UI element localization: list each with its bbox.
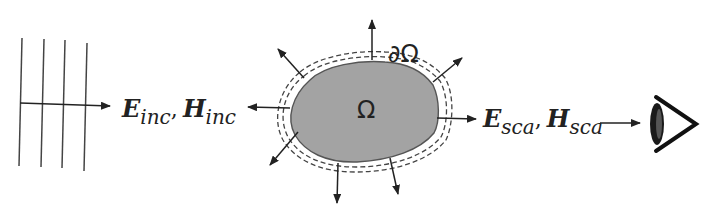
incident-H: H bbox=[183, 94, 206, 123]
arrow-down bbox=[337, 163, 338, 203]
wavefront-line bbox=[19, 38, 22, 166]
separator: , bbox=[535, 107, 542, 132]
incident-direction-arrow bbox=[20, 103, 110, 106]
arrow-lower-right bbox=[390, 158, 398, 194]
incident-E-sub: inc bbox=[140, 105, 170, 129]
incident-field-label: Einc, Hinc bbox=[122, 94, 236, 129]
arrow-right bbox=[437, 118, 476, 119]
arrow-upper-left bbox=[278, 49, 304, 78]
scattered-E-sub: sca bbox=[501, 115, 534, 139]
arrow-left bbox=[248, 107, 290, 108]
domain-label: Ω bbox=[357, 96, 375, 124]
incident-E: E bbox=[122, 94, 140, 123]
scattered-H-sub: sca bbox=[569, 115, 602, 139]
eye-icon bbox=[650, 97, 696, 151]
scattering-diagram bbox=[0, 0, 711, 216]
boundary-label: ∂Ω bbox=[388, 40, 419, 68]
arrow-lower-left bbox=[270, 132, 298, 165]
separator: , bbox=[171, 97, 178, 122]
scattered-H: H bbox=[547, 104, 570, 133]
wavefront-line bbox=[84, 43, 87, 171]
scattered-E: E bbox=[483, 104, 501, 133]
scattered-field-label: Esca, Hsca bbox=[483, 104, 603, 139]
incident-H-sub: inc bbox=[206, 105, 236, 129]
